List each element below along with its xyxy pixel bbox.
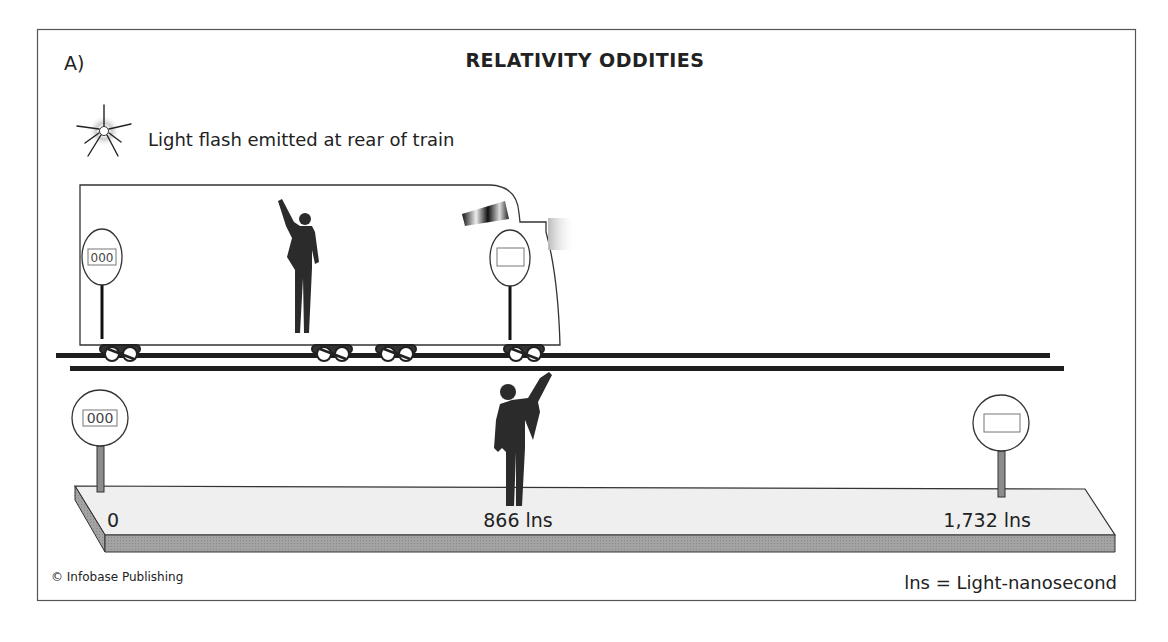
headlight-beam	[548, 218, 576, 250]
publisher-credit: © Infobase Publishing	[51, 570, 183, 584]
unit-legend: lns = Light-nanosecond	[904, 572, 1117, 593]
panel-label: A)	[64, 52, 84, 74]
platform-mark-1732: 1,732 lns	[943, 509, 1031, 531]
platform-mark-0: 0	[107, 509, 119, 531]
rail-upper	[56, 353, 1050, 358]
figure-title: RELATIVITY ODDITIES	[465, 49, 704, 71]
train-rear-clock-display: 000	[91, 251, 114, 265]
flash-caption: Light flash emitted at rear of train	[148, 129, 454, 150]
relativity-diagram: A) RELATIVITY ODDITIES Light flash emitt…	[0, 0, 1168, 642]
rail-lower	[70, 366, 1064, 371]
platform-left-clock-display: 000	[87, 410, 114, 426]
platform-mark-866: 866 lns	[483, 509, 553, 531]
